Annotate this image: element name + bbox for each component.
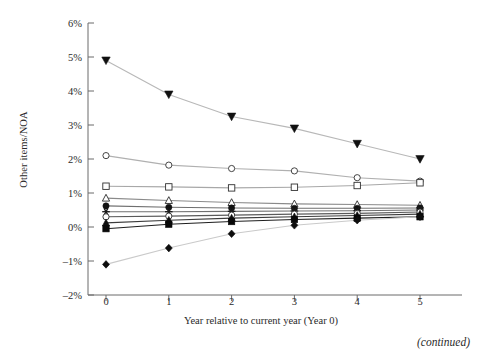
series-points-portfolio-3-open-square — [103, 180, 423, 191]
data-point-diamond-filled — [228, 230, 235, 238]
data-point-diamond-filled — [417, 213, 424, 221]
data-point-circle-open — [103, 214, 109, 220]
y-tick-label: 5% — [36, 52, 82, 63]
series-line-portfolio-1-filled-triangle-down — [106, 60, 420, 159]
y-axis-title: Other items/NOA — [18, 85, 29, 215]
data-point-square-filled — [354, 215, 360, 221]
data-point-star — [353, 207, 361, 214]
data-point-circle-open — [354, 210, 360, 216]
data-point-diamond-filled — [165, 244, 172, 252]
x-tick-label: 1 — [154, 296, 184, 307]
data-point-square-open — [228, 185, 234, 191]
data-point-circle-filled — [103, 203, 109, 209]
data-point-triangle-down-filled — [165, 91, 173, 99]
data-point-circle-filled — [291, 205, 297, 211]
y-tick-label: 0% — [36, 222, 82, 233]
data-point-circle-open — [166, 213, 172, 219]
data-point-circle-filled — [166, 204, 172, 210]
data-point-triangle-up-filled — [228, 214, 235, 221]
data-point-circle-open — [166, 162, 172, 168]
data-point-square-open — [291, 184, 297, 190]
y-tick-label: 4% — [36, 86, 82, 97]
y-tick-label: 2% — [36, 154, 82, 165]
series-points-portfolio-7-open-circle-small — [103, 209, 423, 220]
data-point-square-filled — [103, 226, 109, 232]
data-point-triangle-up-open — [354, 201, 361, 208]
data-point-triangle-up-open — [291, 200, 298, 207]
series-line-portfolio-3-open-square — [106, 183, 420, 188]
data-point-circle-open — [291, 168, 297, 174]
y-tick-label: –1% — [36, 256, 82, 267]
series-line-portfolio-8-filled-triangle-up — [106, 214, 420, 223]
series-points-portfolio-8-filled-triangle-up — [102, 210, 423, 226]
series-points-portfolio-1-filled-triangle-down — [102, 57, 424, 163]
data-point-triangle-up-filled — [416, 210, 423, 217]
data-point-star — [102, 208, 110, 215]
data-point-triangle-down-filled — [353, 140, 361, 148]
data-point-triangle-down-filled — [227, 113, 235, 121]
series-points-portfolio-9-filled-square — [103, 214, 423, 232]
data-point-circle-open — [229, 212, 235, 218]
x-tick-label: 4 — [342, 296, 372, 307]
data-point-diamond-filled — [354, 216, 361, 224]
data-point-square-filled — [166, 221, 172, 227]
y-tick-label: 6% — [36, 18, 82, 29]
data-point-square-filled — [291, 216, 297, 222]
data-point-triangle-up-open — [102, 194, 109, 201]
series-line-portfolio-6-star — [106, 210, 420, 212]
series-line-portfolio-4-open-triangle-up — [106, 198, 420, 205]
data-point-square-open — [417, 180, 423, 186]
data-point-diamond-filled — [291, 222, 298, 230]
data-point-circle-filled — [354, 205, 360, 211]
data-point-circle-open — [417, 178, 423, 184]
x-axis-tick-labels: 012345 — [0, 296, 480, 314]
series-lines — [106, 60, 420, 264]
series-markers — [102, 57, 424, 268]
data-point-star — [228, 208, 236, 215]
series-line-portfolio-7-open-circle-small — [106, 212, 420, 217]
data-point-square-open — [354, 182, 360, 188]
data-point-square-filled — [417, 214, 423, 220]
data-point-square-filled — [228, 218, 234, 224]
axis-lines — [88, 23, 462, 301]
series-points-portfolio-10-filled-diamond — [103, 213, 424, 268]
data-point-triangle-down-filled — [102, 57, 110, 65]
x-tick-label: 3 — [279, 296, 309, 307]
y-tick-label: 3% — [36, 120, 82, 131]
data-point-triangle-up-open — [416, 201, 423, 208]
series-points-portfolio-2-open-circle — [103, 153, 423, 185]
x-tick-label: 2 — [217, 296, 247, 307]
data-point-triangle-up-open — [165, 197, 172, 204]
series-points-portfolio-4-open-triangle-up — [102, 194, 423, 208]
series-line-portfolio-10-filled-diamond — [106, 217, 420, 265]
data-point-star — [165, 208, 173, 215]
figure-chart-other-items-noa: Other items/NOA 6%5%4%3%2%1%0%–1%–2% 012… — [0, 0, 480, 361]
x-tick-label: 0 — [91, 296, 121, 307]
y-tick-label: 1% — [36, 188, 82, 199]
data-point-triangle-up-filled — [165, 216, 172, 223]
continued-caption: (continued) — [417, 336, 470, 348]
data-point-triangle-up-open — [228, 199, 235, 206]
data-point-circle-filled — [417, 205, 423, 211]
data-point-circle-open — [103, 153, 109, 159]
x-tick-label: 5 — [405, 296, 435, 307]
data-point-triangle-up-filled — [102, 219, 109, 226]
data-point-triangle-down-filled — [416, 156, 424, 164]
data-point-circle-open — [229, 165, 235, 171]
series-line-portfolio-5-filled-circle — [106, 206, 420, 208]
data-point-circle-open — [417, 209, 423, 215]
series-points-portfolio-5-filled-circle — [103, 203, 423, 212]
data-point-diamond-filled — [103, 261, 110, 269]
data-point-circle-filled — [229, 205, 235, 211]
series-points-portfolio-6-star — [102, 207, 424, 215]
data-point-circle-open — [354, 175, 360, 181]
data-point-star — [291, 208, 299, 215]
data-point-triangle-up-filled — [291, 213, 298, 220]
x-axis-title: Year relative to current year (Year 0) — [96, 315, 426, 326]
data-point-square-open — [166, 184, 172, 190]
data-point-triangle-down-filled — [290, 125, 298, 133]
data-point-star — [416, 207, 424, 214]
data-point-square-open — [103, 183, 109, 189]
data-point-circle-open — [291, 211, 297, 217]
series-line-portfolio-2-open-circle — [106, 156, 420, 182]
